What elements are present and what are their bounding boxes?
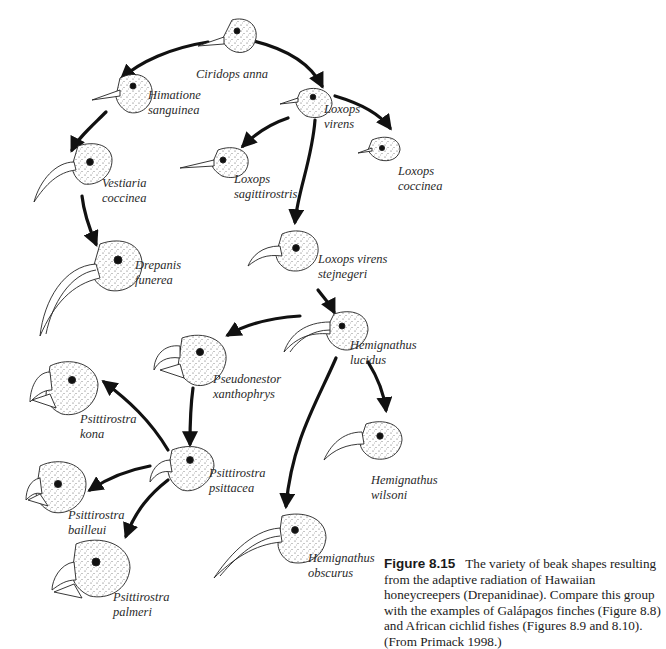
arrow-loxops-virens-to-stejnegeri <box>295 120 315 222</box>
arrow-pseudonestor-to-psittacea <box>190 388 193 444</box>
label-hemignathus-obscurus: Hemignathus obscurus <box>308 551 375 581</box>
label-loxops-virens: Loxops virens <box>324 102 360 132</box>
species-genus: Pseudonestor <box>213 372 281 387</box>
eye-icon <box>68 376 75 383</box>
arrow-lucidus-to-obscurus <box>286 358 336 506</box>
species-epithet: obscurus <box>308 566 375 581</box>
arrow-lucidus-to-wilsoni <box>368 362 386 410</box>
eye-icon <box>87 159 94 166</box>
eye-icon <box>187 457 194 464</box>
species-genus: Himatione <box>148 88 201 103</box>
eye-icon <box>377 433 383 439</box>
eye-icon <box>114 256 122 264</box>
species-epithet: wilsoni <box>371 488 438 503</box>
eye-icon <box>196 348 203 355</box>
bird-outline <box>214 528 282 578</box>
label-vestiaria-coccinea: Vestiaria coccinea <box>102 176 146 206</box>
bird-outline <box>222 19 256 53</box>
bird-head-vestiaria-coccinea <box>34 144 112 202</box>
species-epithet: bailleui <box>68 523 125 538</box>
arrow-psittacea-to-bailleui <box>90 466 150 490</box>
label-drepanis-funerea: Drepanis funerea <box>135 258 181 288</box>
eye-icon <box>130 83 136 89</box>
bird-head-ciridops-anna <box>198 19 256 53</box>
arrow-loxops-virens-to-sagittirostris <box>243 118 288 146</box>
bird-head-drepanis-funerea <box>40 241 142 336</box>
label-psittirostra-kona: Psittirostra kona <box>80 412 137 442</box>
bird-outline <box>360 422 402 459</box>
bird-outline <box>116 74 152 112</box>
figure-number: Figure 8.15 <box>384 556 455 571</box>
species-genus: Drepanis <box>135 258 181 273</box>
species-genus: Hemignathus <box>350 338 417 353</box>
species-name: Ciridops anna <box>196 67 268 82</box>
bird-head-hemignathus-wilsoni <box>324 422 402 460</box>
species-genus: Psittirostra <box>209 466 266 481</box>
species-genus: Psittirostra <box>113 590 170 605</box>
label-psittirostra-palmeri: Psittirostra palmeri <box>113 590 170 620</box>
bird-head-psittirostra-psittacea <box>150 447 214 491</box>
eye-icon <box>220 157 226 163</box>
species-genus: Psittirostra <box>68 508 125 523</box>
bird-outline <box>284 322 330 352</box>
species-genus: Loxops virens <box>318 252 387 267</box>
eye-icon <box>54 480 61 487</box>
species-epithet: palmeri <box>113 605 170 620</box>
species-epithet: virens <box>324 117 360 132</box>
species-epithet: xanthophrys <box>213 387 281 402</box>
species-epithet: coccinea <box>102 191 146 206</box>
label-hemignathus-lucidus: Hemignathus lucidus <box>350 338 417 368</box>
label-psittirostra-psittacea: Psittirostra psittacea <box>209 466 266 496</box>
species-genus: Hemignathus <box>371 473 438 488</box>
bird-outline <box>280 98 298 104</box>
bird-outline <box>92 90 120 100</box>
species-epithet: sanguinea <box>148 103 201 118</box>
eye-icon <box>310 94 316 100</box>
bird-outline <box>324 432 364 460</box>
arrow-psittacea-to-palmeri <box>126 480 168 536</box>
eye-icon <box>292 527 299 534</box>
eye-icon <box>379 145 384 150</box>
arrow-lucidus-to-pseudonestor <box>228 316 300 335</box>
species-epithet: sagittirostris <box>234 187 297 202</box>
eye-icon <box>92 558 100 566</box>
eye-icon <box>293 245 300 252</box>
bird-outline <box>160 364 184 378</box>
label-psittirostra-bailleui: Psittirostra bailleui <box>68 508 125 538</box>
bird-head-psittirostra-bailleui <box>26 462 86 513</box>
arrow-stejnegeri-to-hemignathus-lucidus <box>318 290 334 312</box>
label-loxops-sagittirostris: Loxops sagittirostris <box>234 172 297 202</box>
label-loxops-virens-stejnegeri: Loxops virens stejnegeri <box>318 252 387 282</box>
species-epithet: psittacea <box>209 481 266 496</box>
species-epithet: stejnegeri <box>318 267 387 282</box>
label-hemignathus-wilsoni: Hemignathus wilsoni <box>371 473 438 503</box>
bird-head-psittirostra-kona <box>30 362 98 415</box>
bird-outline <box>248 246 282 266</box>
label-himatione-sanguinea: Himatione sanguinea <box>148 88 201 118</box>
species-genus: Loxops <box>324 102 360 117</box>
bird-outline <box>40 264 100 336</box>
species-genus: Loxops <box>234 172 297 187</box>
bird-outline <box>168 447 214 491</box>
bird-head-loxops-coccinea <box>358 137 400 160</box>
arrow-vestiaria-to-drepanis <box>82 196 96 244</box>
eye-icon <box>339 323 345 329</box>
label-ciridops-anna: Ciridops anna <box>196 67 268 82</box>
bird-outline <box>34 162 76 202</box>
bird-head-loxops-virens-stejnegeri <box>248 231 318 271</box>
species-epithet: funerea <box>135 273 181 288</box>
species-genus: Loxops <box>398 164 442 179</box>
figure-caption: Figure 8.15The variety of beak shapes re… <box>384 556 666 649</box>
species-genus: Hemignathus <box>308 551 375 566</box>
species-epithet: kona <box>80 427 137 442</box>
bird-head-himatione-sanguinea <box>92 74 152 112</box>
species-genus: Psittirostra <box>80 412 137 427</box>
label-loxops-coccinea: Loxops coccinea <box>398 164 442 194</box>
bird-outline <box>72 540 130 597</box>
label-pseudonestor-xanthophrys: Pseudonestor xanthophrys <box>213 372 281 402</box>
species-epithet: coccinea <box>398 179 442 194</box>
species-genus: Vestiaria <box>102 176 146 191</box>
eye-icon <box>234 28 240 34</box>
species-epithet: lucidus <box>350 353 417 368</box>
